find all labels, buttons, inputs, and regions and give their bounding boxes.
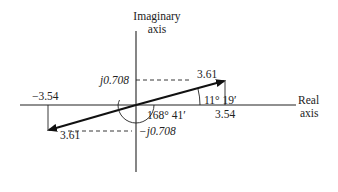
angle-arc-positive — [198, 89, 200, 105]
real-axis-label-line1: Real — [298, 94, 319, 106]
imag-value-negative: −j0.708 — [139, 125, 176, 138]
real-value-positive: 3.54 — [215, 108, 235, 120]
imaginary-axis-label-line1: Imaginary — [133, 10, 181, 23]
phasor-diagram: Imaginary axis Real axis j0.708 3.61 11°… — [0, 0, 338, 192]
magnitude-label-positive: 3.61 — [197, 68, 217, 80]
angle-label-positive: 11° 19′ — [204, 94, 237, 106]
imag-value-positive: j0.708 — [98, 74, 129, 87]
imaginary-axis-label-line2: axis — [148, 23, 167, 35]
real-axis-label-line2: axis — [300, 107, 319, 119]
angle-label-negative: 168° 41′ — [147, 109, 186, 121]
magnitude-label-negative: 3.61 — [60, 129, 80, 141]
real-value-negative: −3.54 — [32, 90, 59, 102]
